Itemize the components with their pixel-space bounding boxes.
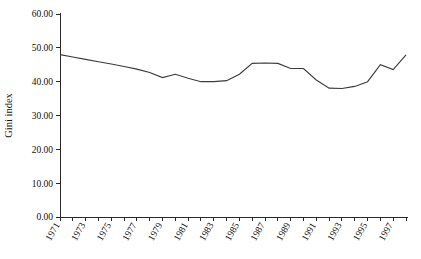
x-tick-label: 1991 bbox=[300, 221, 318, 243]
y-axis-title-group: Gini index bbox=[3, 92, 14, 137]
x-tick-label: 1981 bbox=[172, 221, 190, 243]
x-tick-label: 1973 bbox=[69, 221, 87, 243]
y-tick-label: 20.00 bbox=[32, 145, 54, 155]
x-tick-label: 1979 bbox=[146, 221, 164, 243]
x-tick-label: 1983 bbox=[197, 221, 215, 243]
x-tick-label: 1995 bbox=[351, 221, 369, 243]
gini-index-line-chart: Gini index 0.0010.0020.0030.0040.0050.00… bbox=[0, 0, 421, 259]
x-tick-label: 1993 bbox=[325, 221, 343, 243]
x-tick-label: 1975 bbox=[95, 221, 113, 243]
y-tick-label: 60.00 bbox=[32, 9, 54, 19]
y-tick-label: 30.00 bbox=[32, 111, 54, 121]
y-tick-label: 10.00 bbox=[32, 179, 54, 189]
y-tick-label: 40.00 bbox=[32, 77, 54, 87]
gini-index-series-line bbox=[60, 55, 406, 89]
y-tick-label: 0.00 bbox=[36, 212, 53, 222]
y-axis-title: Gini index bbox=[3, 92, 14, 137]
y-axis-ticks: 0.0010.0020.0030.0040.0050.0060.00 bbox=[32, 9, 60, 222]
y-tick-label: 50.00 bbox=[32, 43, 54, 53]
x-tick-label: 1989 bbox=[274, 221, 292, 243]
x-tick-label: 1997 bbox=[377, 221, 395, 243]
x-tick-label: 1985 bbox=[223, 221, 241, 243]
x-tick-label: 1987 bbox=[249, 221, 267, 243]
x-tick-label: 1971 bbox=[44, 221, 62, 243]
x-axis-ticks: 1971197319751977197919811983198519871989… bbox=[44, 217, 406, 242]
chart-canvas: Gini index 0.0010.0020.0030.0040.0050.00… bbox=[0, 0, 421, 259]
x-tick-label: 1977 bbox=[120, 221, 138, 243]
